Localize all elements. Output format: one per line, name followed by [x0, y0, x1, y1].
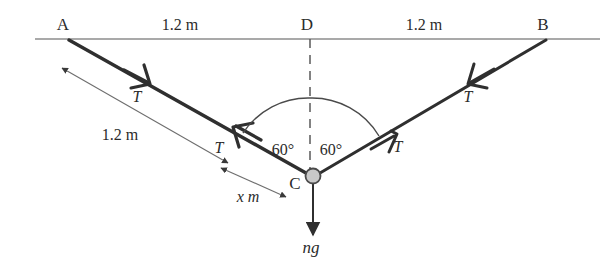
- bead-icon: [306, 169, 321, 184]
- angle-arc-left: [243, 98, 310, 133]
- angle-arc-right: [310, 98, 379, 136]
- label-point-c: C: [289, 174, 300, 193]
- tension-arrow-upper-left: [124, 65, 150, 88]
- label-angle-left: 60°: [272, 141, 294, 158]
- diagram-canvas: A D B C 1.2 m 1.2 m 1.2 m x m 60° 60° T …: [0, 0, 613, 265]
- string-segment-bc: [320, 40, 546, 173]
- tension-arrow-upper-right: [468, 64, 494, 88]
- physics-diagram-figure: A D B C 1.2 m 1.2 m 1.2 m x m 60° 60° T …: [0, 0, 613, 265]
- label-length-xc: x m: [236, 188, 260, 205]
- label-tension-upper-right: T: [464, 88, 474, 105]
- label-weight-force: ng: [303, 238, 320, 257]
- label-tension-lower-left: T: [215, 139, 225, 156]
- label-angle-right: 60°: [320, 141, 342, 158]
- label-tension-upper-left: T: [133, 88, 143, 105]
- label-length-ad: 1.2 m: [162, 16, 199, 33]
- label-length-ac: 1.2 m: [102, 126, 139, 143]
- label-point-d: D: [301, 15, 313, 34]
- label-length-db: 1.2 m: [406, 16, 443, 33]
- string-segment-ac: [69, 40, 306, 173]
- label-point-b: B: [537, 15, 548, 34]
- label-point-a: A: [57, 15, 70, 34]
- label-tension-lower-right: T: [394, 138, 404, 155]
